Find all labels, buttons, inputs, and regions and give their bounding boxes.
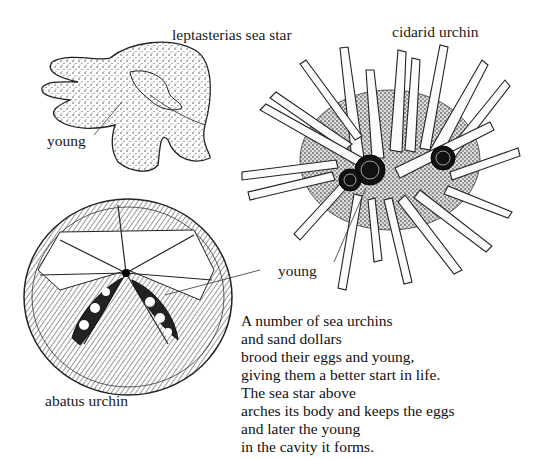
cidarid-urchin-drawing — [242, 45, 520, 290]
label-leptasterias-sea-star: leptasterias sea star — [172, 26, 292, 44]
label-abatus-urchin: abatus urchin — [45, 392, 128, 410]
caption-line: brood their eggs and young, — [241, 348, 455, 366]
label-cidarid-urchin: cidarid urchin — [392, 23, 479, 41]
abatus-urchin-drawing — [24, 199, 260, 395]
caption-line: A number of sea urchins — [241, 312, 455, 330]
sea-star-drawing — [42, 42, 211, 171]
caption-line: and later the young — [241, 420, 455, 438]
caption-paragraph: A number of sea urchins and sand dollars… — [241, 312, 455, 456]
caption-line: in the cavity it forms. — [241, 438, 455, 456]
caption-line: The sea star above — [241, 384, 455, 402]
caption-line: giving them a better start in life. — [241, 366, 455, 384]
caption-line: arches its body and keeps the eggs — [241, 402, 455, 420]
caption-line: and sand dollars — [241, 330, 455, 348]
label-sea-star-young: young — [47, 132, 86, 150]
label-urchin-young: young — [278, 262, 317, 280]
